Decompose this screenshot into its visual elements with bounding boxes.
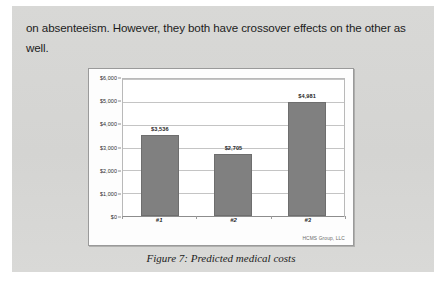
y-axis-tick-label: $6,000	[100, 75, 117, 81]
x-axis-tick-label: #2	[196, 217, 270, 229]
y-axis-tick	[118, 170, 121, 171]
body-paragraph: on absenteeism. However, they both have …	[26, 18, 422, 58]
y-axis-tick	[118, 217, 121, 218]
bar-slot: $4,981	[270, 79, 344, 216]
figure-caption: Figure 7: Predicted medical costs	[88, 252, 354, 264]
document-page: on absenteeism. However, they both have …	[12, 6, 434, 272]
y-axis-tick	[118, 78, 121, 79]
x-axis-labels: #1#2#3	[122, 217, 345, 229]
bar-slot: $3,536	[123, 79, 197, 216]
y-axis-tick	[118, 101, 121, 102]
x-axis-tick	[345, 216, 346, 219]
x-axis-tick-label: #3	[271, 217, 345, 229]
y-axis-tick-label: $1,000	[100, 191, 117, 197]
y-axis-tick-label: $3,000	[100, 145, 117, 151]
bar-value-label: $3,536	[151, 126, 169, 132]
chart-attribution: HCMS Group, LLC	[302, 236, 345, 241]
y-axis-tick-label: $4,000	[100, 121, 117, 127]
y-axis-tick-label: $5,000	[100, 98, 117, 104]
body-text-block: on absenteeism. However, they both have …	[26, 18, 422, 58]
figure-block: $0$1,000$2,000$3,000$4,000$5,000$6,000 $…	[88, 68, 356, 264]
bar-slot: $2,705	[197, 79, 271, 216]
y-axis-tick	[118, 193, 121, 194]
bar-value-label: $4,981	[298, 93, 316, 99]
y-axis-tick	[118, 147, 121, 148]
y-axis-tick-label: $0	[111, 214, 117, 220]
y-axis-tick-label: $2,000	[100, 168, 117, 174]
bar: $3,536	[141, 135, 179, 216]
y-axis-labels: $0$1,000$2,000$3,000$4,000$5,000$6,000	[89, 78, 121, 217]
chart-card: $0$1,000$2,000$3,000$4,000$5,000$6,000 $…	[88, 68, 354, 246]
bar: $4,981	[288, 102, 326, 216]
bar-value-label: $2,705	[225, 145, 243, 151]
bar: $2,705	[214, 154, 252, 216]
bar-series: $3,536$2,705$4,981	[123, 79, 344, 216]
x-axis-tick-label: #1	[122, 217, 196, 229]
y-axis-tick	[118, 124, 121, 125]
chart-plot-area: $3,536$2,705$4,981	[122, 78, 345, 217]
